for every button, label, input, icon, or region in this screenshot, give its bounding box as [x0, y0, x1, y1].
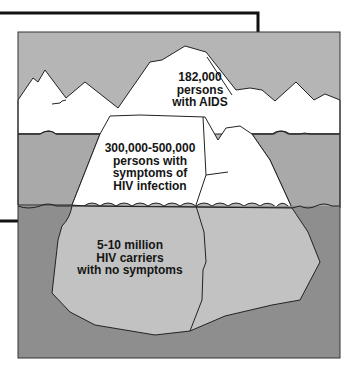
middle-label-line: symptoms of	[95, 167, 205, 180]
base-label-line: with no symptoms	[70, 264, 190, 277]
base-label-line: 5-10 million	[70, 239, 190, 252]
middle-label-line: HIV infection	[95, 180, 205, 193]
tip-label-line: with AIDS	[150, 96, 250, 109]
tip-label-line: 182,000	[150, 71, 250, 84]
tip-label: 182,000 persons with AIDS	[150, 71, 250, 109]
frame-bracket-top	[0, 13, 258, 32]
iceberg-diagram: 182,000 persons with AIDS 300,000-500,00…	[0, 0, 357, 372]
middle-label: 300,000-500,000 persons with symptoms of…	[95, 142, 205, 192]
middle-label-line: 300,000-500,000	[95, 142, 205, 155]
base-label: 5-10 million HIV carriers with no sympto…	[70, 239, 190, 277]
